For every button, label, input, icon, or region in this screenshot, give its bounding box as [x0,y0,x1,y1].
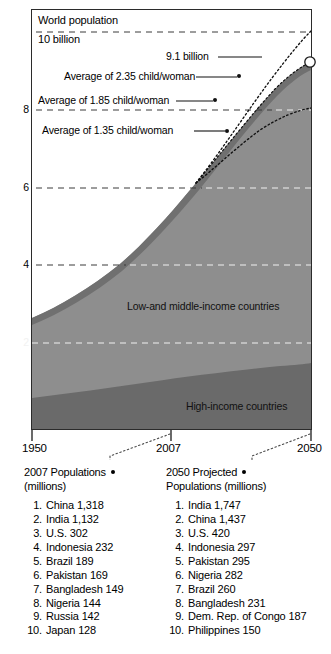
chart-graphic [0,0,331,460]
list-item-label: Brazil 260 [188,583,235,597]
y-tick-2: 2 [11,337,29,348]
list-item-rank: 10. [166,624,184,638]
list-item-label: Russia 142 [46,610,100,624]
list-item: 8.Bangladesh 231 [166,597,331,611]
list-item-label: Bangladesh 149 [46,583,123,597]
list-2007-anchor-dot [111,470,115,474]
list-item: 1.China 1,318 [24,499,174,513]
list-item-label: Bangladesh 231 [188,597,265,611]
list-item-label: U.S. 420 [188,527,230,541]
list-item-rank: 5. [166,555,184,569]
x-tick-1950: 1950 [22,442,47,454]
endpoint-marker-91-billion [305,57,315,67]
list-item: 10.Japan 128 [24,624,174,638]
area-label-high-income: High-income countries [186,400,287,412]
y-tick-4: 4 [11,259,29,270]
list-item: 3.U.S. 420 [166,527,331,541]
list-item: 3.U.S. 302 [24,527,174,541]
list-item-label: Indonesia 232 [46,541,113,555]
list-item-rank: 4. [24,541,42,555]
list-item-label: Indonesia 297 [188,541,255,555]
list-item-rank: 9. [24,610,42,624]
list-item-label: India 1,132 [46,513,99,527]
list-item-rank: 3. [24,527,42,541]
list-item-label: Dem. Rep. of Congo 187 [188,610,306,624]
list-item-rank: 1. [24,499,42,513]
list-2007-items: 1.China 1,318 2.India 1,132 3.U.S. 302 4… [24,499,174,638]
list-item: 8.Nigeria 144 [24,597,174,611]
list-item: 10.Philippines 150 [166,624,331,638]
y-tick-6: 6 [11,182,29,193]
list-item-rank: 8. [166,597,184,611]
annotation-fertility-185: Average of 1.85 child/woman [38,94,169,106]
chart-title-line1: World population [38,14,118,26]
x-axis [32,430,311,441]
list-item: 1.India 1,747 [166,499,331,513]
list-item-rank: 6. [166,569,184,583]
list-item: 9.Dem. Rep. of Congo 187 [166,610,331,624]
x-tick-2050: 2050 [297,442,322,454]
list-item-rank: 10. [24,624,42,638]
list-item-rank: 2. [24,513,42,527]
list-item-rank: 9. [166,610,184,624]
list-item-rank: 8. [24,597,42,611]
annotation-91-billion: 9.1 billion [166,50,209,62]
list-2050-heading-line1: 2050 Projected [166,466,331,480]
list-item-label: U.S. 302 [46,527,88,541]
list-item: 2.China 1,437 [166,513,331,527]
list-item-label: Pakistan 169 [46,569,108,583]
list-2007-heading-text1: 2007 Populations [24,466,106,478]
list-item: 5.Pakistan 295 [166,555,331,569]
list-item: 7.Bangladesh 149 [24,583,174,597]
leader-dot-135 [225,129,229,133]
list-2050-heading-line2: Populations (millions) [166,480,331,494]
list-item-label: Nigeria 282 [188,569,243,583]
list-item: 6.Pakistan 169 [24,569,174,583]
list-2050-anchor-dot [242,470,246,474]
list-item-rank: 6. [24,569,42,583]
list-item-label: Pakistan 295 [188,555,250,569]
y-tick-8: 8 [11,104,29,115]
population-list-2050: 2050 Projected Populations (millions) 1.… [166,466,331,638]
list-item-label: China 1,437 [188,513,246,527]
annotation-fertility-235: Average of 2.35 child/woman [64,70,195,82]
population-projection-figure: 8 6 4 2 World population 10 billion 9.1 … [0,0,331,654]
list-item: 2.India 1,132 [24,513,174,527]
population-list-2007: 2007 Populations (millions) 1.China 1,31… [24,466,174,638]
list-item: 9.Russia 142 [24,610,174,624]
list-item-label: Nigeria 144 [46,597,101,611]
list-item-label: India 1,747 [188,499,241,513]
list-item-rank: 4. [166,541,184,555]
leader-dot-235 [237,74,241,78]
list-item-label: China 1,318 [46,499,104,513]
list-item-label: Philippines 150 [188,624,260,638]
list-item-rank: 2. [166,513,184,527]
list-item: 4.Indonesia 232 [24,541,174,555]
list-item: 4.Indonesia 297 [166,541,331,555]
list-2007-heading-line1: 2007 Populations [24,466,174,480]
list-item-rank: 7. [166,583,184,597]
list-item-rank: 3. [166,527,184,541]
list-item-label: Brazil 189 [46,555,93,569]
list-item-rank: 5. [24,555,42,569]
chart-title-line2: 10 billion [38,33,80,45]
area-label-low-middle-income: Low-and middle-income countries [127,300,279,312]
list-item-rank: 7. [24,583,42,597]
x-tick-2007: 2007 [156,442,181,454]
list-2050-items: 1.India 1,747 2.China 1,437 3.U.S. 420 4… [166,499,331,638]
list-2050-heading-text1: 2050 Projected [166,466,237,478]
list-item: 7.Brazil 260 [166,583,331,597]
list-item: 5.Brazil 189 [24,555,174,569]
list-2007-heading-line2: (millions) [24,480,174,494]
leader-dot-185 [213,98,217,102]
list-item-label: Japan 128 [46,624,96,638]
annotation-fertility-135: Average of 1.35 child/woman [42,124,173,136]
list-item: 6.Nigeria 282 [166,569,331,583]
list-item-rank: 1. [166,499,184,513]
